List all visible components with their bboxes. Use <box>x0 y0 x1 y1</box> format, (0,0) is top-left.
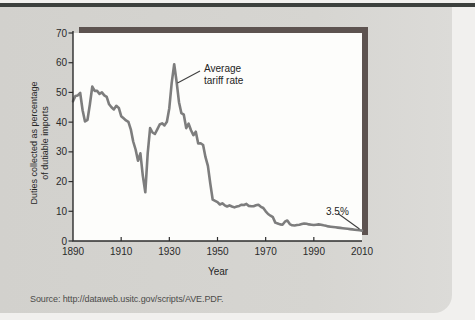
x-tick-label: 1950 <box>201 246 235 257</box>
y-tick-label: 40 <box>37 117 67 128</box>
x-tick-label: 1910 <box>104 246 138 257</box>
x-tick-label: 1930 <box>152 246 186 257</box>
x-tick-label: 1990 <box>297 246 331 257</box>
y-tick-label: 30 <box>37 146 67 157</box>
y-tick-label: 70 <box>37 28 67 39</box>
source-citation: Source: http://dataweb.usitc.gov/scripts… <box>30 294 224 304</box>
annotation-endpoint-value: 3.5% <box>326 206 349 218</box>
figure-panel: Duties collected as percentage of dutiab… <box>0 7 452 313</box>
x-axis-title: Year <box>196 266 240 277</box>
y-tick-label: 50 <box>37 87 67 98</box>
x-tick-label: 1970 <box>249 246 283 257</box>
x-tick-label: 1890 <box>56 246 90 257</box>
x-tick-label: 2010 <box>345 246 379 257</box>
annotation-average-tariff-rate: Average tariff rate <box>204 63 243 86</box>
y-tick-label: 10 <box>37 206 67 217</box>
y-tick-label: 20 <box>37 176 67 187</box>
y-tick-label: 60 <box>37 57 67 68</box>
y-tick-label: 0 <box>37 236 67 247</box>
